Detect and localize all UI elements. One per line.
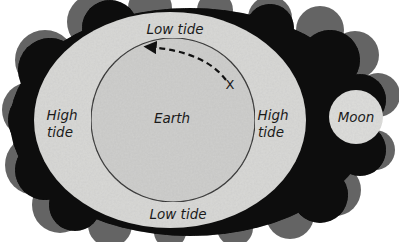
high-tide-right-label-line1: High <box>257 107 288 123</box>
low-tide-top-label: Low tide <box>146 21 203 37</box>
x-marker-label: X <box>226 77 235 92</box>
earth-label: Earth <box>154 110 190 126</box>
high-tide-left-label-line1: High <box>46 107 77 123</box>
low-tide-bottom-label: Low tide <box>149 206 206 222</box>
moon-label: Moon <box>338 109 375 125</box>
tides-diagram: Low tide Low tide High tide High tide Ea… <box>0 0 399 242</box>
high-tide-left-label-line2: tide <box>47 124 73 140</box>
high-tide-right-label-line2: tide <box>258 124 284 140</box>
